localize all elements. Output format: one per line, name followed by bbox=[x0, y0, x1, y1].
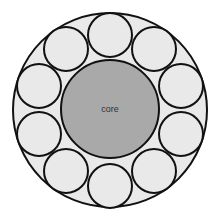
strand-circle bbox=[159, 64, 203, 108]
strand-circle bbox=[17, 112, 61, 156]
core-label: core bbox=[101, 104, 119, 114]
strand-circle bbox=[159, 112, 203, 156]
cable-cross-section-diagram: core bbox=[0, 0, 220, 223]
strand-circle bbox=[44, 27, 88, 71]
strand-circle bbox=[44, 149, 88, 193]
strand-circle bbox=[88, 13, 132, 57]
strand-circle bbox=[17, 64, 61, 108]
strand-circle bbox=[88, 164, 132, 208]
strand-circle bbox=[132, 27, 176, 71]
strand-circle bbox=[132, 149, 176, 193]
